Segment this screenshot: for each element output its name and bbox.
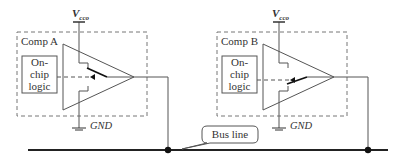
switch-b-lower [279,86,288,128]
output-a-wire [134,77,168,150]
bus-line-callout: Bus line [182,126,258,149]
switch-b-upper [279,63,288,68]
bus-diagram: Comp A On- chip logic Vcco GND Comp B On… [0,0,402,162]
switch-a-upper [79,63,88,68]
gnd-b-label: GND [290,120,313,131]
switch-b-blade [287,77,307,84]
on-chip-logic-b-line3: logic [229,80,251,92]
on-chip-logic-a-line3: logic [29,80,51,92]
vcc-a-label: Vcco [72,7,90,22]
on-chip-logic-a-line2: chip [30,68,49,80]
component-b-label: Comp B [221,35,258,47]
component-a-label: Comp A [21,35,58,47]
on-chip-logic-b-line1: On- [231,56,248,68]
bus-junction-b [365,147,371,153]
bus-line-label: Bus line [212,128,248,140]
output-b-wire [334,77,368,150]
bus-junction-a [165,147,171,153]
switch-a-blade [87,68,107,77]
control-a-arrow [90,74,95,80]
on-chip-logic-a-line1: On- [31,56,48,68]
on-chip-logic-b-line2: chip [230,68,249,80]
switch-a-lower [79,86,88,128]
gnd-a-label: GND [90,120,113,131]
vcc-b-label: Vcco [272,7,290,22]
component-a: Comp A On- chip logic Vcco GND [17,7,171,153]
